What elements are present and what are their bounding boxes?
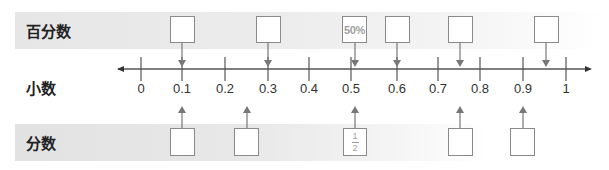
percent-answer-box[interactable]: [448, 16, 473, 43]
percent-answer-box[interactable]: [256, 16, 281, 43]
tick-label-0.7: 0.7: [429, 81, 447, 96]
down-arrow-icons: [178, 60, 550, 67]
percent-answer-box[interactable]: [534, 16, 559, 43]
tick-label-0.2: 0.2: [216, 81, 234, 96]
left-arrow-icon: [117, 66, 124, 72]
fraction-answer-box[interactable]: [448, 128, 473, 156]
numerator: 1: [352, 132, 357, 141]
tick-label-0: 0: [137, 81, 144, 96]
tick-label-0.4: 0.4: [300, 81, 318, 96]
tick-label-0.1: 0.1: [173, 81, 191, 96]
percent-example-box: 50%: [342, 16, 367, 43]
fraction-pointers: [182, 112, 523, 128]
percent-pointers: [182, 43, 546, 62]
fraction-answer-box[interactable]: [510, 128, 535, 156]
percent-example-value: 50%: [344, 24, 365, 36]
right-arrow-icon: [585, 66, 592, 72]
tick-label-0.9: 0.9: [514, 81, 532, 96]
tick-label-0.5: 0.5: [342, 81, 360, 96]
fraction-answer-box[interactable]: [234, 128, 259, 156]
percent-answer-box[interactable]: [385, 16, 410, 43]
tick-label-0.3: 0.3: [259, 81, 277, 96]
fraction-example-box: 1 2: [343, 128, 367, 156]
fraction-one-half: 1 2: [352, 132, 359, 153]
percent-answer-box[interactable]: [170, 16, 195, 43]
denominator: 2: [352, 144, 357, 153]
tick-label-0.6: 0.6: [388, 81, 406, 96]
tick-label-0.8: 0.8: [471, 81, 489, 96]
tick-label-1: 1: [562, 81, 569, 96]
fraction-answer-box[interactable]: [170, 128, 195, 156]
up-arrow-icons: [178, 106, 527, 113]
